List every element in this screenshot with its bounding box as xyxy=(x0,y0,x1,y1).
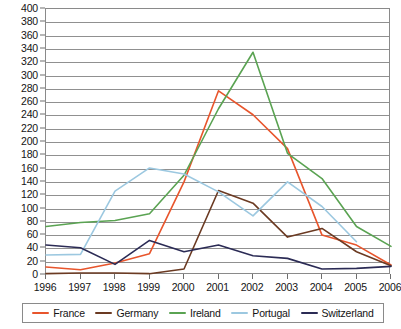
legend-swatch-icon xyxy=(95,312,112,315)
chart-legend: FranceGermanyIrelandPortugalSwitzerland xyxy=(22,303,384,323)
x-axis-tick-mark xyxy=(149,274,150,279)
x-axis-tick-label: 2003 xyxy=(275,282,298,293)
legend-swatch-icon xyxy=(169,312,186,315)
x-axis-tick-label: 1997 xyxy=(68,282,91,293)
x-axis-tick-label: 2004 xyxy=(310,282,333,293)
y-axis-tick-label: 160 xyxy=(21,162,38,173)
legend-item-germany[interactable]: Germany xyxy=(95,308,158,319)
x-axis-tick-label: 1999 xyxy=(137,282,160,293)
legend-swatch-icon xyxy=(32,312,49,315)
x-axis-tick-label: 2002 xyxy=(241,282,264,293)
y-axis-tick-label: 380 xyxy=(21,16,38,27)
x-axis-tick-label: 2001 xyxy=(206,282,229,293)
legend-label: France xyxy=(53,308,84,319)
legend-label: Ireland xyxy=(190,308,221,319)
y-axis: 4003803603403203002802602402202001801601… xyxy=(0,8,45,274)
legend-item-switzerland[interactable]: Switzerland xyxy=(301,308,374,319)
y-axis-tick-label: 340 xyxy=(21,43,38,54)
x-axis-tick-mark xyxy=(390,274,391,279)
x-axis-tick-mark xyxy=(252,274,253,279)
x-axis-tick-label: 2006 xyxy=(379,282,401,293)
y-axis-tick-label: 100 xyxy=(21,202,38,213)
x-axis-tick-mark xyxy=(114,274,115,279)
y-axis-tick-label: 360 xyxy=(21,29,38,40)
y-axis-tick-label: 240 xyxy=(21,109,38,120)
x-axis-tick-mark xyxy=(356,274,357,279)
y-axis-tick-label: 20 xyxy=(27,255,38,266)
x-axis-tick-label: 1996 xyxy=(34,282,57,293)
series-line-portugal xyxy=(46,168,357,255)
legend-swatch-icon xyxy=(301,312,318,315)
y-axis-tick-label: 140 xyxy=(21,176,38,187)
y-axis-tick-label: 220 xyxy=(21,122,38,133)
x-axis-tick-mark xyxy=(45,274,46,279)
y-axis-tick-label: 180 xyxy=(21,149,38,160)
legend-item-ireland[interactable]: Ireland xyxy=(169,308,221,319)
x-axis: 1996199719981999200020012002200320042005… xyxy=(45,274,390,300)
y-axis-tick-label: 400 xyxy=(21,3,38,14)
y-axis-tick-label: 280 xyxy=(21,83,38,94)
series-line-france xyxy=(46,91,391,270)
y-axis-tick-label: 80 xyxy=(27,216,38,227)
y-axis-tick-label: 60 xyxy=(27,229,38,240)
legend-swatch-icon xyxy=(231,312,248,315)
y-axis-tick-label: 200 xyxy=(21,136,38,147)
plot-area xyxy=(45,8,390,274)
x-axis-tick-mark xyxy=(287,274,288,279)
x-axis-tick-mark xyxy=(218,274,219,279)
y-axis-tick-label: 120 xyxy=(21,189,38,200)
legend-label: Portugal xyxy=(252,308,290,319)
series-line-ireland xyxy=(46,52,391,246)
y-axis-tick-label: 260 xyxy=(21,96,38,107)
x-axis-tick-label: 2005 xyxy=(344,282,367,293)
x-axis-tick-mark xyxy=(321,274,322,279)
y-axis-tick-label: 40 xyxy=(27,242,38,253)
x-axis-tick-label: 2000 xyxy=(172,282,195,293)
series-line-switzerland xyxy=(46,240,391,269)
x-axis-tick-mark xyxy=(183,274,184,279)
legend-label: Germany xyxy=(116,308,158,319)
series-layer xyxy=(46,9,391,275)
x-axis-tick-mark xyxy=(80,274,81,279)
legend-label: Switzerland xyxy=(322,308,374,319)
legend-item-france[interactable]: France xyxy=(32,308,84,319)
y-axis-tick-label: 320 xyxy=(21,56,38,67)
legend-item-portugal[interactable]: Portugal xyxy=(231,308,290,319)
y-axis-tick-label: 0 xyxy=(32,269,38,280)
y-axis-tick-label: 300 xyxy=(21,69,38,80)
x-axis-tick-label: 1998 xyxy=(103,282,126,293)
